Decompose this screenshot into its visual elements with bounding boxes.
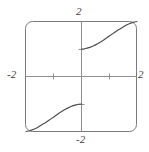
axis-label-right: 2	[138, 69, 144, 80]
axis-label-left: -2	[7, 69, 16, 80]
plot-canvas	[0, 0, 149, 152]
curve-upper-right-branch	[82, 22, 138, 50]
plot-figure: 2 -2 2 -2	[0, 0, 149, 152]
curve-lower-left-branch	[26, 104, 82, 132]
axis-label-top: 2	[76, 6, 82, 17]
axis-label-bottom: -2	[76, 134, 85, 145]
